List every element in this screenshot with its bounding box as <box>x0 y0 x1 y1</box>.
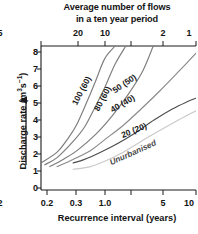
y-axis <box>37 46 41 190</box>
plot-area: 100 (60)80 (60)50 (50)40 (40)20 (20)Unur… <box>0 0 198 234</box>
curve-labels: 100 (60)80 (60)50 (50)40 (40)20 (20)Unur… <box>70 72 159 167</box>
curve-label-50-50-: 50 (50) <box>111 72 139 95</box>
top-axis <box>41 41 196 46</box>
chart-figure: Average number of flows in a ten year pe… <box>0 0 198 234</box>
x-axis <box>41 190 196 195</box>
curve-label-20-20-: 20 (20) <box>120 121 149 140</box>
curve-unurbanised <box>73 111 196 170</box>
curve-label-40-40-: 40 (40) <box>109 92 137 114</box>
curve-label-100-60-: 100 (60) <box>70 74 94 106</box>
curve-label-unurbanised: Unurbanised <box>108 138 158 167</box>
